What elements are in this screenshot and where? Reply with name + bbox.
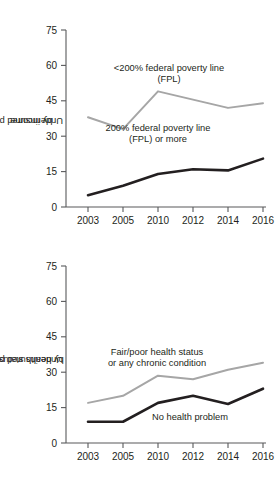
y-tick-label-0: 0 bbox=[51, 438, 57, 449]
y-tick-label-15: 15 bbox=[46, 402, 58, 413]
x-ticks-income bbox=[88, 207, 263, 212]
x-tick-label-2016: 2016 bbox=[252, 451, 275, 462]
y-tick-label-45: 45 bbox=[46, 331, 58, 342]
series-line-fair-poor-health bbox=[88, 363, 263, 403]
y-axis-title-income: Underinsured percentages by income bbox=[0, 0, 40, 240]
y-tick-label-75: 75 bbox=[46, 25, 58, 36]
annotation-200-fpl-or-more-line1: 200% federal poverty line bbox=[106, 123, 211, 133]
x-tick-label-2012: 2012 bbox=[182, 451, 205, 462]
plot-area-income: 0 15 30 45 60 75 2003 2005 2010 2012 201… bbox=[38, 0, 279, 240]
x-tick-label-2014: 2014 bbox=[217, 451, 240, 462]
y-tick-label-30: 30 bbox=[46, 131, 58, 142]
annotation-under-200-fpl-line1: <200% federal poverty line bbox=[114, 63, 224, 73]
x-tick-label-2016: 2016 bbox=[252, 215, 275, 226]
plot-area-health: 0 15 30 45 60 75 2003 2005 2010 2012 201… bbox=[38, 240, 279, 479]
y-tick-label-45: 45 bbox=[46, 95, 58, 106]
chart-panel-income: Underinsured percentages by income 0 15 … bbox=[0, 0, 279, 240]
x-ticks-health bbox=[88, 443, 263, 448]
x-tick-label-2012: 2012 bbox=[182, 215, 205, 226]
y-tick-label-60: 60 bbox=[46, 60, 58, 71]
annotation-no-health-problem: No health problem bbox=[152, 412, 228, 422]
y-ticks-income bbox=[61, 30, 66, 207]
x-tick-label-2010: 2010 bbox=[147, 215, 170, 226]
y-tick-label-15: 15 bbox=[46, 166, 58, 177]
annotation-fair-poor-health-line1: Fair/poor health status bbox=[111, 347, 204, 357]
y-tick-label-0: 0 bbox=[51, 202, 57, 213]
annotation-under-200-fpl-line2: (FPL) bbox=[157, 74, 180, 84]
annotation-200-fpl-or-more-line2: (FPL) or more bbox=[129, 134, 187, 144]
series-line-200-fpl-or-more bbox=[88, 159, 263, 196]
annotation-fair-poor-health-line2: or any chronic condition bbox=[108, 358, 206, 368]
y-axis-title-health: Underinsured percentages by health statu… bbox=[0, 240, 40, 479]
x-tick-label-2014: 2014 bbox=[217, 215, 240, 226]
y-tick-label-30: 30 bbox=[46, 367, 58, 378]
x-tick-label-2005: 2005 bbox=[112, 215, 135, 226]
x-tick-label-2003: 2003 bbox=[77, 215, 100, 226]
x-tick-label-2010: 2010 bbox=[147, 451, 170, 462]
y-tick-label-75: 75 bbox=[46, 261, 58, 272]
y-tick-label-60: 60 bbox=[46, 296, 58, 307]
y-ticks-health bbox=[61, 266, 66, 443]
x-tick-label-2003: 2003 bbox=[77, 451, 100, 462]
x-tick-label-2005: 2005 bbox=[112, 451, 135, 462]
chart-panel-health-status: Underinsured percentages by health statu… bbox=[0, 240, 279, 479]
